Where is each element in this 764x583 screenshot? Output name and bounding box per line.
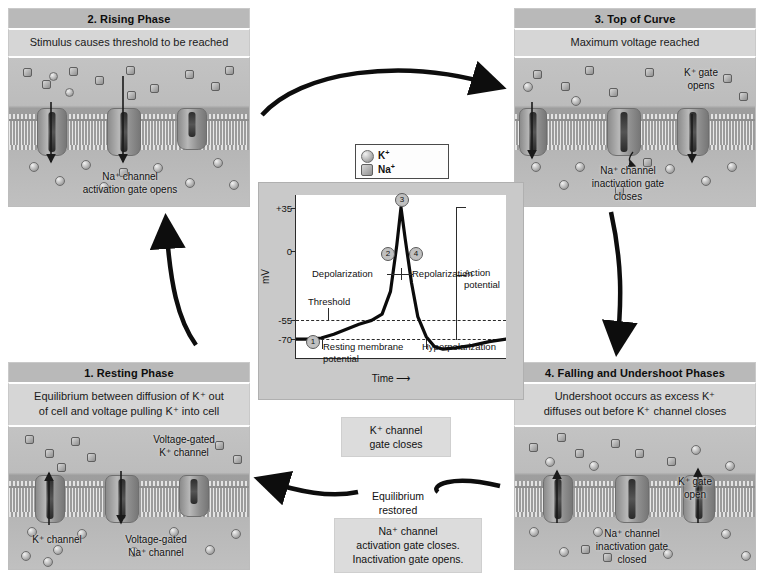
na-inact-line-1: Na⁺ channel bbox=[600, 165, 656, 176]
na-act-closes-line-1: Na⁺ channel bbox=[378, 525, 437, 537]
voltage-gated-k-channel-graphic bbox=[179, 475, 209, 517]
panel-falling-undershoot[interactable]: 4. Falling and Undershoot Phases Undersh… bbox=[514, 362, 756, 570]
na-ion-legend-label: Na+ bbox=[378, 164, 395, 175]
chart-x-axis-label: Time ⟶ bbox=[259, 373, 523, 384]
vg-k-line-2: K⁺ channel bbox=[159, 447, 208, 458]
na-legend-text: Na bbox=[378, 164, 391, 175]
na-inact-closed-line-3: closed bbox=[618, 554, 647, 565]
na-channel-open-graphic bbox=[107, 108, 141, 156]
na-ion-legend-square-icon bbox=[361, 164, 373, 176]
k-channel-graphic bbox=[35, 475, 65, 523]
ion-legend: K+ Na+ bbox=[355, 144, 449, 179]
action-potential-annotation: Actionpotential bbox=[464, 267, 500, 291]
y-tick-label-70: -70 bbox=[278, 334, 292, 345]
voltage-gated-na-channel-label: Voltage-gated Na⁺ channel bbox=[101, 533, 211, 559]
panel-rising-phase[interactable]: 2. Rising Phase Stimulus causes threshol… bbox=[8, 8, 250, 207]
k-channel-graphic bbox=[543, 475, 573, 523]
k-gate-opens-line-1: K⁺ gate bbox=[684, 67, 718, 78]
panel-falling-undershoot-title: 4. Falling and Undershoot Phases bbox=[514, 362, 756, 382]
na-channel-inactivated-graphic bbox=[615, 475, 649, 523]
marker-2-rising[interactable]: 2 bbox=[381, 247, 395, 261]
k-channel-gate-closes-callout: K⁺ channel gate closes bbox=[341, 417, 451, 457]
panel-top-of-curve-title: 3. Top of Curve bbox=[514, 8, 756, 28]
panel-top-of-curve-subtitle: Maximum voltage reached bbox=[514, 28, 756, 56]
marker-3-peak[interactable]: 3 bbox=[395, 193, 409, 207]
marker-4-falling[interactable]: 4 bbox=[409, 247, 423, 261]
panel-resting-phase[interactable]: 1. Resting Phase Equilibrium between dif… bbox=[8, 362, 250, 570]
na-inact-line-3: closes bbox=[614, 191, 642, 202]
y-tick-label-0: 0 bbox=[287, 246, 292, 257]
depolarization-annotation: Depolarization bbox=[312, 268, 373, 280]
k-gate-closes-line-2: gate closes bbox=[369, 438, 422, 450]
na-inact-line-2: inactivation gate bbox=[592, 178, 664, 189]
na-inact-closed-line-1: Na⁺ channel bbox=[604, 528, 660, 539]
y-tick-label-55: -55 bbox=[278, 315, 292, 326]
na-activation-line-2: activation gate opens bbox=[83, 184, 178, 195]
k-gate-opens-label: K⁺ gate opens bbox=[661, 66, 741, 92]
panel-resting-phase-subtitle-line-2: of cell and voltage pulling K⁺ into cell bbox=[39, 405, 219, 417]
vg-na-line-2: Na⁺ channel bbox=[128, 547, 184, 558]
na-act-closes-line-2: activation gate closes. bbox=[356, 539, 459, 551]
k-gate-open-line-1: K⁺ gate bbox=[678, 476, 712, 487]
na-inact-closed-line-2: inactivation gate bbox=[596, 541, 668, 552]
panel-resting-phase-illustration: Voltage-gated K⁺ channel K⁺ channel Volt… bbox=[8, 425, 250, 570]
k-channel-line-1: K⁺ channel bbox=[32, 534, 81, 545]
na-channel-activation-gate-closes-callout: Na⁺ channel activation gate closes. Inac… bbox=[334, 518, 482, 573]
panel-falling-undershoot-illustration: K⁺ gate open Na⁺ channel inactivation ga… bbox=[514, 425, 756, 570]
y-tick-label-35: +35 bbox=[276, 202, 292, 213]
na-activation-line-1: Na⁺ channel bbox=[102, 171, 158, 182]
k-channel-open-graphic bbox=[677, 108, 709, 156]
panel-rising-phase-subtitle: Stimulus causes threshold to be reached bbox=[8, 28, 250, 56]
panel-rising-phase-subtitle-line-1: Stimulus causes threshold to be reached bbox=[30, 36, 229, 48]
na-legend-charge: + bbox=[391, 162, 395, 171]
voltage-gated-k-channel-label: Voltage-gated K⁺ channel bbox=[129, 433, 239, 459]
na-channel-inactivation-gate-closed-label: Na⁺ channel inactivation gate closed bbox=[567, 527, 697, 566]
na-channel-activation-gate-opens-label: Na⁺ channel activation gate opens bbox=[55, 170, 205, 196]
k-gate-closes-line-1: K⁺ channel bbox=[370, 424, 423, 436]
na-channel-inactivation-gate-closes-label: Na⁺ channel inactivation gate closes bbox=[563, 164, 693, 203]
voltage-gated-na-channel-graphic bbox=[105, 475, 139, 523]
vg-k-line-1: Voltage-gated bbox=[153, 434, 215, 445]
chart-x-axis-text: Time bbox=[372, 373, 394, 384]
k-channel-label: K⁺ channel bbox=[17, 533, 97, 546]
k-channel-closed-graphic bbox=[177, 108, 207, 150]
panel-rising-phase-illustration: Na⁺ channel activation gate opens bbox=[8, 56, 250, 207]
marker-1-resting[interactable]: 1 bbox=[306, 335, 320, 349]
panel-resting-phase-subtitle-line-1: Equilibrium between diffusion of K⁺ out bbox=[34, 390, 224, 402]
chart-y-axis-label: mV bbox=[260, 269, 271, 284]
panel-top-of-curve-illustration: K⁺ gate opens Na⁺ channel inactivation g… bbox=[514, 56, 756, 207]
k-legend-charge: + bbox=[385, 148, 389, 157]
panel-falling-undershoot-subtitle: Undershoot occurs as excess K⁺ diffuses … bbox=[514, 382, 756, 425]
panel-rising-phase-title: 2. Rising Phase bbox=[8, 8, 250, 28]
k-channel-graphic bbox=[519, 108, 547, 156]
threshold-annotation: Threshold bbox=[308, 296, 350, 308]
panel-top-of-curve[interactable]: 3. Top of Curve Maximum voltage reached bbox=[514, 8, 756, 207]
k-ion-legend-circle-icon bbox=[361, 150, 374, 163]
k-gate-open-line-2: open bbox=[684, 489, 706, 500]
hyperpolarization-annotation: Hyperpolarization bbox=[422, 341, 496, 353]
equilibrium-line-2: restored bbox=[379, 504, 418, 516]
na-channel-inactivating-graphic bbox=[607, 108, 641, 156]
panel-resting-phase-title: 1. Resting Phase bbox=[8, 362, 250, 382]
k-gate-opens-line-2: opens bbox=[687, 80, 714, 91]
panel-falling-subtitle-line-1: Undershoot occurs as excess K⁺ bbox=[555, 390, 716, 402]
action-potential-chart[interactable]: mV +35 0 -55 -70 Depolarization Repo bbox=[258, 182, 524, 400]
na-act-closes-line-3: Inactivation gate opens. bbox=[353, 553, 464, 565]
resting-membrane-potential-annotation: Resting membranepotential bbox=[323, 341, 403, 365]
k-gate-open-label: K⁺ gate open bbox=[655, 475, 735, 501]
panel-top-of-curve-subtitle-line-1: Maximum voltage reached bbox=[570, 36, 699, 48]
equilibrium-restored-label: Equilibrium restored bbox=[348, 490, 448, 517]
vg-na-line-1: Voltage-gated bbox=[125, 534, 187, 545]
k-ion-legend-label: K+ bbox=[378, 150, 389, 161]
panel-falling-subtitle-line-2: diffuses out before K⁺ channel closes bbox=[544, 405, 727, 417]
equilibrium-line-1: Equilibrium bbox=[372, 490, 424, 502]
panel-resting-phase-subtitle: Equilibrium between diffusion of K⁺ out … bbox=[8, 382, 250, 425]
k-channel-graphic bbox=[37, 108, 67, 156]
chart-plot-area: +35 0 -55 -70 Depolarization Repolarizat… bbox=[295, 195, 506, 359]
arrow-right-icon: ⟶ bbox=[396, 373, 410, 384]
